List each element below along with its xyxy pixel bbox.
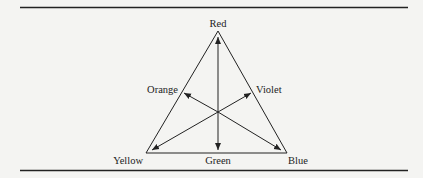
label-yellow: Yellow (113, 155, 143, 166)
color-triangle-diagram: Red Orange Violet Yellow Green Blue (0, 0, 423, 178)
label-red: Red (210, 18, 228, 29)
label-green: Green (205, 155, 231, 166)
arrow-to-yellow (152, 112, 218, 150)
label-blue: Blue (288, 155, 308, 166)
label-orange: Orange (147, 84, 178, 95)
label-violet: Violet (256, 84, 282, 95)
arrow-to-violet (218, 93, 251, 112)
arrow-to-orange (184, 93, 218, 112)
arrow-to-blue (218, 112, 281, 150)
